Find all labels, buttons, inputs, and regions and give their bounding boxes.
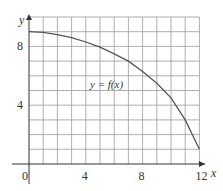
function-graph: 0481248 y x y = f(x) [0,0,223,191]
x-axis-label: x [210,166,217,180]
svg-text:8: 8 [17,39,23,53]
svg-text:4: 4 [17,98,23,112]
y-axis-label: y [18,13,25,27]
grid-lines [29,17,199,164]
svg-text:8: 8 [139,169,145,183]
axes [12,14,205,184]
curve-label: y = f(x) [89,78,123,91]
svg-text:12: 12 [195,169,207,183]
svg-text:0: 0 [22,169,28,183]
svg-text:4: 4 [82,169,88,183]
